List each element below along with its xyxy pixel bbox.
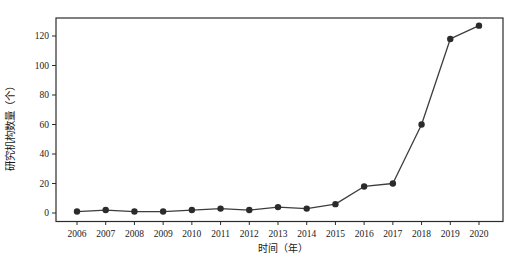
- data-point: [189, 207, 195, 213]
- data-point: [275, 204, 281, 210]
- x-tick-label: 2013: [268, 229, 287, 239]
- y-tick-label: 80: [40, 90, 50, 100]
- x-tick-label: 2015: [326, 229, 345, 239]
- data-point: [476, 22, 482, 28]
- x-tick-label: 2006: [68, 229, 87, 239]
- x-tick-label: 2019: [441, 229, 460, 239]
- data-point: [217, 205, 223, 211]
- x-tick-label: 2018: [412, 229, 431, 239]
- line-chart: 0204060801001202006200720082009201020112…: [0, 0, 524, 262]
- data-point: [131, 208, 137, 214]
- data-point: [304, 205, 310, 211]
- x-tick-label: 2011: [211, 229, 230, 239]
- data-point: [361, 183, 367, 189]
- data-point: [246, 207, 252, 213]
- data-point: [332, 201, 338, 207]
- x-tick-label: 2012: [240, 229, 259, 239]
- data-point: [160, 208, 166, 214]
- x-tick-label: 2020: [469, 229, 488, 239]
- x-tick-label: 2014: [297, 229, 316, 239]
- x-tick-label: 2009: [154, 229, 173, 239]
- data-point: [74, 208, 80, 214]
- x-tick-label: 2007: [96, 229, 115, 239]
- x-tick-label: 2008: [125, 229, 144, 239]
- x-tick-label: 2010: [182, 229, 201, 239]
- y-tick-label: 20: [40, 179, 50, 189]
- y-tick-label: 0: [44, 208, 49, 218]
- data-point: [447, 36, 453, 42]
- data-point: [103, 207, 109, 213]
- data-point: [390, 180, 396, 186]
- y-tick-label: 100: [35, 61, 50, 71]
- y-tick-label: 40: [40, 149, 50, 159]
- data-point: [418, 121, 424, 127]
- x-tick-label: 2017: [383, 229, 402, 239]
- chart-background: [0, 0, 524, 262]
- line-chart-svg: 0204060801001202006200720082009201020112…: [0, 0, 524, 262]
- y-axis-label: 研究机构数量（个）: [4, 81, 16, 171]
- y-tick-label: 120: [35, 31, 50, 41]
- x-tick-label: 2016: [355, 229, 374, 239]
- y-tick-label: 60: [40, 120, 50, 130]
- x-axis-label: 时间（年）: [258, 242, 308, 254]
